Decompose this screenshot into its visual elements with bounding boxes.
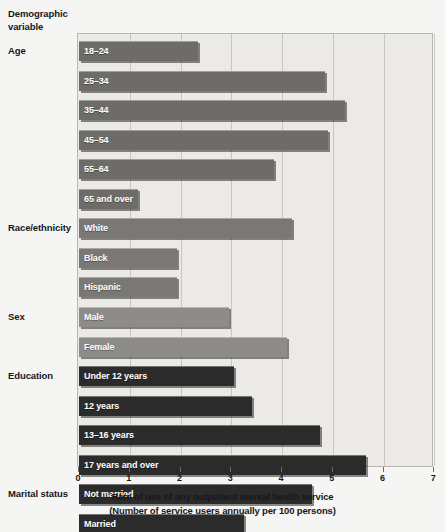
x-axis-caption-line1: Rate of use of any outpatient mental hea…: [0, 490, 445, 504]
x-tick-label-5: 5: [320, 473, 344, 483]
group-label-age: Age: [8, 45, 76, 56]
bar-label: Black: [84, 248, 108, 268]
x-tick-label-0: 0: [66, 473, 90, 483]
bar-label: 35–44: [84, 100, 109, 120]
bar-row[interactable]: 17 years and over: [79, 455, 434, 475]
bar-row[interactable]: White: [79, 218, 434, 238]
x-tick-5: [332, 467, 333, 472]
x-tick-label-7: 7: [421, 473, 445, 483]
bar-label: 18–24: [84, 41, 109, 61]
bar[interactable]: [79, 218, 292, 238]
x-tick-7: [433, 467, 434, 472]
x-tick-0: [78, 467, 79, 472]
bar-label: 12 years: [84, 396, 119, 416]
x-tick-3: [230, 467, 231, 472]
bar-label: Hispanic: [84, 277, 121, 297]
bar-row[interactable]: 12 years: [79, 396, 434, 416]
bar-label: Under 12 years: [84, 366, 147, 386]
bar-label: 25–34: [84, 71, 109, 91]
y-axis-header-line2: variable: [8, 21, 78, 34]
bar-row[interactable]: Female: [79, 337, 434, 357]
bar-row[interactable]: Under 12 years: [79, 366, 434, 386]
bar[interactable]: [79, 100, 345, 120]
bar-label: 65 and over: [84, 189, 133, 209]
bar-label: Male: [84, 307, 104, 327]
bar-row[interactable]: 45–54: [79, 130, 434, 150]
bar-row[interactable]: Hispanic: [79, 277, 434, 297]
bar[interactable]: [79, 130, 328, 150]
x-tick-label-6: 6: [371, 473, 395, 483]
x-tick-label-4: 4: [269, 473, 293, 483]
bar-row[interactable]: 25–34: [79, 71, 434, 91]
x-tick-1: [129, 467, 130, 472]
bar-label: 17 years and over: [84, 455, 158, 475]
group-label-race-ethnicity: Race/ethnicity: [8, 222, 76, 233]
bar-row[interactable]: 18–24: [79, 41, 434, 61]
bar-row[interactable]: Male: [79, 307, 434, 327]
x-tick-2: [180, 467, 181, 472]
bar-label: 45–54: [84, 130, 109, 150]
bar[interactable]: [79, 71, 325, 91]
bar-row[interactable]: Black: [79, 248, 434, 268]
x-tick-label-2: 2: [168, 473, 192, 483]
gridline-7: [434, 34, 435, 466]
x-tick-label-3: 3: [218, 473, 242, 483]
y-axis-header-line1: Demographic: [8, 8, 78, 21]
y-axis-header: Demographic variable: [8, 8, 78, 33]
x-axis-caption-line2: (Number of service users annually per 10…: [0, 504, 445, 518]
x-axis-caption: Rate of use of any outpatient mental hea…: [0, 490, 445, 517]
group-label-education: Education: [8, 370, 76, 381]
x-tick-6: [383, 467, 384, 472]
chart-page: Demographic variable AgeRace/ethnicitySe…: [0, 0, 445, 532]
x-tick-label-1: 1: [117, 473, 141, 483]
bar-label: 13–16 years: [84, 425, 134, 445]
bar-label: Female: [84, 337, 114, 357]
bar-row[interactable]: 35–44: [79, 100, 434, 120]
bar-row[interactable]: 65 and over: [79, 189, 434, 209]
x-tick-4: [281, 467, 282, 472]
bar-row[interactable]: 13–16 years: [79, 425, 434, 445]
plot-area: 18–2425–3435–4445–5455–6465 and overWhit…: [77, 33, 433, 467]
bar-label: White: [84, 218, 108, 238]
bar-label: 55–64: [84, 159, 109, 179]
bar-row[interactable]: 55–64: [79, 159, 434, 179]
group-label-sex: Sex: [8, 311, 76, 322]
